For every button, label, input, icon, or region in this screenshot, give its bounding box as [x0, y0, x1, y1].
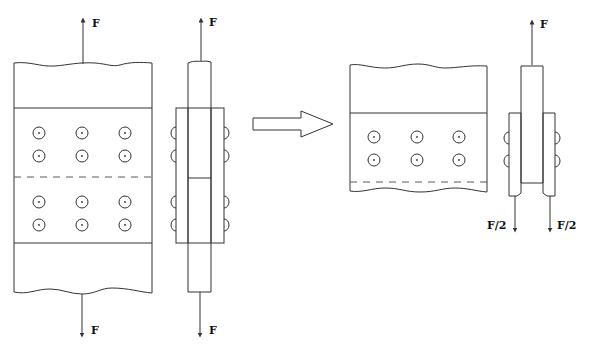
right-side-view: F F/2 F/2 [487, 18, 576, 232]
hollow-right-arrow-icon [253, 111, 333, 137]
cover-plate-right [543, 113, 555, 196]
bolt-icon [411, 131, 423, 143]
main-plate-side [188, 61, 211, 292]
bolt-icon [76, 196, 88, 208]
main-plate-side [521, 66, 543, 183]
bolt-icon [76, 219, 88, 231]
force-label: F [209, 324, 217, 337]
plate-outline [14, 62, 152, 294]
bolt-icon [119, 150, 131, 162]
cover-plate-left [509, 113, 521, 196]
bolt-icon [33, 196, 45, 208]
bolt-heads-right [224, 127, 229, 231]
force-label: F [92, 17, 100, 30]
bolt-icon [33, 127, 45, 139]
plate-outline [350, 64, 487, 192]
bolt-grid [368, 131, 465, 166]
bolt-icon [119, 127, 131, 139]
bolt-icon [453, 131, 465, 143]
half-force-label: F/2 [487, 219, 506, 232]
bolt-icon [368, 131, 380, 143]
left-plan-view: F F [14, 17, 152, 337]
bolt-icon [33, 150, 45, 162]
left-side-view: F F [171, 16, 229, 337]
bolt-icon [411, 154, 423, 166]
splice-diagram: F F F F [0, 0, 591, 350]
bolt-grid [33, 127, 131, 231]
bolt-icon [368, 154, 380, 166]
bolt-icon [76, 150, 88, 162]
half-force-label: F/2 [557, 219, 576, 232]
force-label: F [540, 18, 548, 31]
bolt-icon [119, 219, 131, 231]
bolt-icon [76, 127, 88, 139]
force-label: F [209, 16, 217, 29]
right-plan-view [350, 64, 487, 192]
force-label: F [91, 324, 99, 337]
cover-plates [176, 108, 224, 243]
bolt-heads-left [171, 127, 176, 231]
bolt-icon [33, 219, 45, 231]
bolt-icon [453, 154, 465, 166]
bolt-icon [119, 196, 131, 208]
